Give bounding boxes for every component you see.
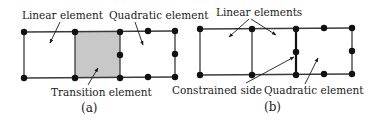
panel-a: Linear element Quadratic element Transit… [21,9,209,115]
label-constrained-side: Constrained side [172,84,262,96]
mesh-edges-b [200,28,352,75]
mesh-nodes-b [197,25,355,78]
arrow-constrained [246,57,294,83]
label-quadratic-element-b: Quadratic element [264,84,364,96]
arrow-linear-a [50,22,60,43]
label-transition-element: Transition element [51,86,153,98]
arrow-linear-b-right [251,19,276,35]
label-linear-elements: Linear elements [216,6,302,18]
arrow-linear-b-left [229,19,249,37]
arrow-quadratic-b [305,58,318,84]
panel-b: Linear elements Constrained side Quadrat… [172,6,364,114]
label-quadratic-element-a: Quadratic element [109,9,209,21]
caption-a: (a) [81,101,98,115]
caption-b: (b) [264,100,281,114]
fem-element-diagram: Linear element Quadratic element Transit… [0,0,376,124]
label-linear-element: Linear element [22,9,104,21]
arrow-quadratic-a [135,22,143,45]
transition-element-shading [75,32,120,78]
